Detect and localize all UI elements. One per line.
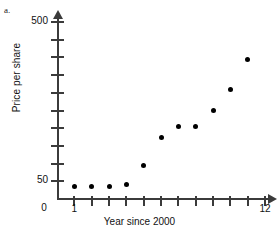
x-axis-tick-label: 12 [250, 203, 279, 214]
y-axis-tick [51, 74, 64, 76]
y-axis-tick [51, 127, 64, 129]
x-axis-tick [108, 196, 110, 206]
x-axis-tick [229, 196, 231, 206]
y-axis-arrow-icon [53, 10, 63, 19]
x-axis-tick [91, 196, 93, 206]
y-axis-tick [51, 110, 64, 112]
data-point [159, 135, 164, 140]
data-point [228, 87, 233, 92]
panel-label: a. [4, 5, 10, 15]
x-axis-title: Year since 2000 [0, 216, 279, 227]
data-point [141, 163, 146, 168]
scatter-plot-figure: a. Price per share Year since 2000 0 505… [0, 0, 279, 233]
data-point [107, 184, 112, 189]
x-axis-tick [195, 196, 197, 206]
x-axis-tick [177, 196, 179, 206]
data-point [72, 184, 77, 189]
y-axis-tick [51, 163, 64, 165]
data-point [124, 182, 129, 187]
x-axis-tick-label: 1 [59, 203, 89, 214]
data-point [193, 124, 198, 129]
y-axis-tick [51, 180, 64, 182]
y-axis-tick-label: 500 [8, 15, 48, 26]
data-point [211, 108, 216, 113]
x-axis-tick [212, 196, 214, 206]
y-axis-tick [51, 56, 64, 58]
data-point [176, 124, 181, 129]
y-axis-tick [51, 21, 64, 23]
y-axis-tick [51, 145, 64, 147]
x-axis-tick [125, 196, 127, 206]
y-axis-tick [51, 39, 64, 41]
y-axis-title: Price per share [11, 28, 22, 128]
x-axis-line [57, 198, 269, 200]
y-axis-tick-label-0: 0 [34, 202, 54, 213]
x-axis-tick [143, 196, 145, 206]
data-point [89, 184, 94, 189]
x-axis-tick [160, 196, 162, 206]
y-axis-tick-label: 50 [8, 174, 48, 185]
x-axis-tick [247, 196, 249, 206]
data-point [245, 57, 250, 62]
y-axis-tick [51, 92, 64, 94]
